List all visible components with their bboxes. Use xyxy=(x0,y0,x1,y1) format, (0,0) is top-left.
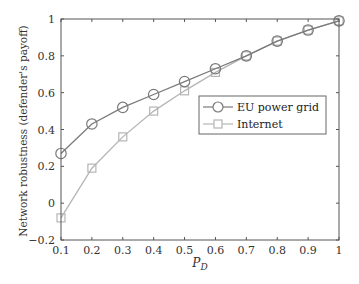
x-tick-label: 0.9 xyxy=(299,244,317,257)
y-tick-label: 0.8 xyxy=(38,50,56,63)
legend: EU power grid Internet xyxy=(199,96,326,134)
circle-marker-icon xyxy=(213,102,223,112)
x-tick-label: 0.5 xyxy=(176,244,194,257)
line-chart: 0.10.20.30.40.50.60.70.80.91 −0.200.20.4… xyxy=(0,0,359,284)
y-tick-labels: −0.200.20.40.60.81 xyxy=(28,13,55,247)
x-tick-label: 0.7 xyxy=(238,244,256,257)
series-eu-power-grid xyxy=(56,16,344,159)
y-axis-label: Network robustness (defender's payoff) xyxy=(17,25,29,236)
square-marker-icon xyxy=(214,120,222,128)
y-tick-label: 1 xyxy=(48,13,55,26)
x-tick-label: 0.6 xyxy=(207,244,225,257)
x-tick-label: 0.8 xyxy=(268,244,286,257)
x-axis-label-subscript: D xyxy=(199,262,207,272)
x-axis-label: PD xyxy=(191,256,207,272)
y-tick-label: 0.6 xyxy=(38,87,56,100)
x-tick-label: 1 xyxy=(336,244,343,257)
x-tick-label: 0.3 xyxy=(114,244,132,257)
y-tick-label: −0.2 xyxy=(28,234,55,247)
legend-label: EU power grid xyxy=(237,101,319,114)
x-tick-label: 0.2 xyxy=(83,244,101,257)
y-tick-label: 0.4 xyxy=(38,124,56,137)
legend-label: Internet xyxy=(237,118,283,131)
y-tick-label: 0 xyxy=(48,197,55,210)
x-tick-label: 0.4 xyxy=(145,244,163,257)
legend-item-eu-power-grid: EU power grid xyxy=(203,101,319,114)
y-tick-label: 0.2 xyxy=(38,160,56,173)
